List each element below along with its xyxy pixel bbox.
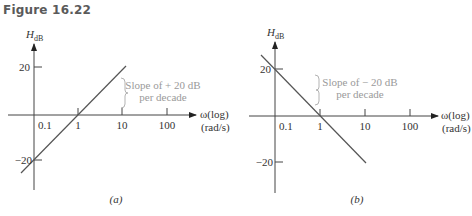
y-tick-neg20-a: −20 bbox=[15, 154, 33, 166]
x-axis-units-b: (rad/s) bbox=[442, 122, 471, 135]
slope-annotation-line2-a: per decade bbox=[139, 91, 186, 103]
y-axis-label-b: HdB bbox=[266, 26, 284, 41]
x-tick-0.1-a: 0.1 bbox=[38, 119, 52, 131]
panel-b: HdB 20 −20 0.1 1 10 100 ω(log) (rad/s) S… bbox=[249, 26, 471, 206]
slope-annotation-line2-b: per decade bbox=[336, 88, 383, 100]
x-axis-label-b: ω(log) bbox=[441, 109, 470, 122]
slope-annotation-line1-a: Slope of + 20 dB bbox=[125, 79, 200, 91]
slope-annotation-line1-b: Slope of − 20 dB bbox=[322, 76, 397, 88]
x-tick-0.1-b: 0.1 bbox=[279, 120, 293, 132]
magnitude-line-a bbox=[21, 66, 126, 173]
x-tick-10-b: 10 bbox=[360, 120, 372, 132]
x-axis-units-a: (rad/s) bbox=[201, 121, 230, 134]
x-tick-100-b: 100 bbox=[402, 120, 419, 132]
y-tick-20-a: 20 bbox=[19, 61, 31, 73]
figure-canvas: HdB 20 −20 0.1 1 10 100 ω(log) (rad/s) S… bbox=[0, 0, 472, 216]
y-tick-neg20-b: −20 bbox=[256, 156, 274, 168]
x-axis-label-a: ω(log) bbox=[200, 108, 229, 121]
x-tick-100-a: 100 bbox=[159, 119, 176, 131]
y-axis-label-a: HdB bbox=[25, 28, 43, 43]
x-tick-1-a: 1 bbox=[75, 119, 81, 131]
magnitude-line-b bbox=[261, 55, 366, 163]
panel-a: HdB 20 −20 0.1 1 10 100 ω(log) (rad/s) S… bbox=[8, 28, 230, 206]
caption-b: (b) bbox=[351, 193, 364, 206]
caption-a: (a) bbox=[110, 193, 123, 206]
brace-b bbox=[315, 75, 319, 105]
x-tick-10-a: 10 bbox=[117, 119, 129, 131]
x-tick-1-b: 1 bbox=[317, 120, 323, 132]
y-tick-20-b: 20 bbox=[260, 63, 272, 75]
